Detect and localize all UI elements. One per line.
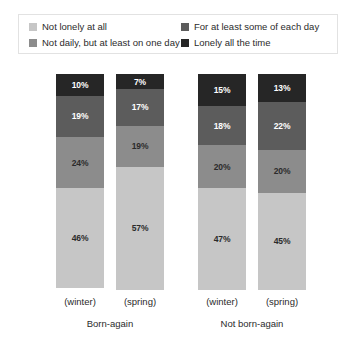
bar-segment: 57% [116,167,164,290]
bar-not-born-again-winter: 15%18%20%47% [198,74,246,290]
legend-swatch-icon [181,39,189,47]
bar-segment: 47% [198,188,246,290]
legend-swatch-icon [29,39,37,47]
bar-segment: 17% [116,89,164,126]
axis-group-not-born-again: (winter) (spring) Not born-again [182,296,322,349]
bar-segment: 19% [56,96,104,137]
bar-group-not-born-again: 15%18%20%47% 13%22%20%45% [182,60,322,292]
bar-segment: 20% [198,145,246,188]
legend-label: Lonely all the time [194,38,271,48]
legend-item-for-at-least-some-of-each-day: For at least some of each day [181,22,339,32]
bar-not-born-again-spring: 13%22%20%45% [258,74,306,290]
chart-legend: Not lonely at all For at least some of e… [18,14,338,54]
legend-item-not-lonely-at-all: Not lonely at all [29,22,181,32]
x-axis: (winter) (spring) Born-again (winter) (s… [0,296,356,349]
legend-item-not-daily-but-at-least-on-one-day: Not daily, but at least on one day [29,38,181,48]
bar-segment: 15% [198,74,246,106]
axis-label-season: (spring) [254,296,310,307]
bar-group-born-again: 10%19%24%46% 7%17%19%57% [40,60,180,292]
axis-label-group: Born-again [40,318,180,329]
season-row: (winter) (spring) [182,296,322,312]
axis-label-season: (winter) [194,296,250,307]
legend-item-lonely-all-the-time: Lonely all the time [181,38,339,48]
bar-segment: 18% [198,106,246,145]
bar-segment: 20% [258,150,306,193]
bar-born-again-spring: 7%17%19%57% [116,74,164,290]
bar-segment: 24% [56,137,104,189]
bar-segment: 46% [56,188,104,287]
legend-swatch-icon [29,23,37,31]
bar-born-again-winter: 10%19%24%46% [56,74,104,290]
legend-grid: Not lonely at all For at least some of e… [29,19,339,51]
bar-segment: 22% [258,102,306,150]
season-row: (winter) (spring) [40,296,180,312]
axis-group-born-again: (winter) (spring) Born-again [40,296,180,349]
legend-label: Not daily, but at least on one day [42,38,180,48]
plot-area: 10%19%24%46% 7%17%19%57% 15%18%20%47% 13… [0,60,356,292]
legend-swatch-icon [181,23,189,31]
bar-segment: 45% [258,193,306,290]
bar-segment: 7% [116,74,164,89]
legend-label: Not lonely at all [42,22,107,32]
axis-label-season: (spring) [112,296,168,307]
stacked-bar-chart: Not lonely at all For at least some of e… [0,0,356,349]
axis-label-group: Not born-again [182,318,322,329]
axis-label-season: (winter) [52,296,108,307]
bar-segment: 13% [258,74,306,102]
bar-segment: 10% [56,74,104,96]
legend-label: For at least some of each day [194,22,319,32]
bar-segment: 19% [116,126,164,167]
